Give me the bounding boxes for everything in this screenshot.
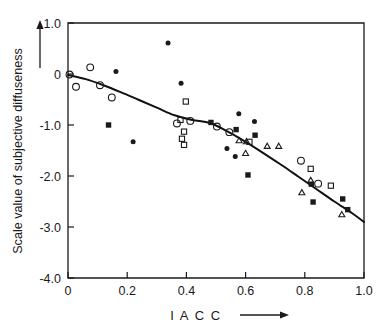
y-axis-arrow-icon: [36, 20, 43, 68]
x-tick-label: 0.6: [237, 284, 254, 298]
marker-filled-square: [245, 172, 250, 177]
series-open-triangle: [236, 138, 345, 217]
marker-open-circle: [174, 120, 181, 127]
chart-figure: 00.20.40.60.81.0 1.00-1.0-2.0-3.0-4.0 I …: [0, 0, 389, 334]
marker-open-square: [181, 142, 186, 147]
x-tick-label: 0.2: [119, 284, 136, 298]
y-tick-label: -3.0: [39, 221, 61, 235]
fit-curve-path: [68, 75, 364, 222]
y-tick-label: 1.0: [44, 17, 61, 31]
marker-filled-circle: [131, 139, 136, 144]
marker-filled-circle: [252, 119, 257, 124]
y-tick-label: -2.0: [39, 170, 61, 184]
scatter-plot-svg: 00.20.40.60.81.0 1.00-1.0-2.0-3.0-4.0 I …: [0, 0, 389, 334]
marker-open-square: [181, 129, 186, 134]
marker-filled-circle: [166, 40, 171, 45]
marker-open-triangle: [339, 212, 345, 217]
x-tick-label: 0.4: [178, 284, 195, 298]
marker-filled-circle: [224, 146, 229, 151]
series-open-square: [178, 99, 334, 188]
marker-filled-circle: [236, 111, 241, 116]
y-axis-title: Scale value of subjective diffuseness: [11, 48, 25, 254]
marker-open-triangle: [264, 143, 270, 148]
marker-open-triangle: [243, 150, 249, 155]
marker-filled-square: [208, 120, 213, 125]
plot-frame: [68, 23, 364, 278]
marker-open-square: [179, 136, 184, 141]
y-axis-tick-labels: 1.00-1.0-2.0-3.0-4.0: [39, 17, 61, 286]
x-axis-tick-labels: 00.20.40.60.81.0: [65, 284, 373, 298]
marker-open-square: [183, 99, 188, 104]
marker-open-circle: [108, 94, 115, 101]
marker-filled-square: [106, 122, 111, 127]
y-tick-label: -1.0: [39, 119, 61, 133]
marker-open-circle: [315, 180, 322, 187]
marker-filled-square: [310, 199, 315, 204]
marker-open-square: [328, 183, 333, 188]
marker-open-circle: [298, 157, 305, 164]
marker-filled-square: [252, 133, 257, 138]
marker-open-circle: [73, 83, 80, 90]
marker-filled-circle: [233, 154, 238, 159]
marker-filled-square: [345, 207, 350, 212]
x-arrow-head: [280, 311, 289, 318]
marker-open-triangle: [299, 190, 305, 195]
x-tick-label: 0.8: [296, 284, 313, 298]
x-axis-title: I A C C: [170, 308, 222, 323]
x-axis-arrow-icon: [240, 311, 289, 318]
series-filled-circle: [113, 40, 257, 159]
y-axis-ticks: [68, 23, 74, 278]
x-tick-label: 0: [65, 284, 72, 298]
marker-filled-square: [233, 127, 238, 132]
marker-filled-circle: [113, 69, 118, 74]
marker-open-circle: [87, 64, 94, 71]
series-open-circle: [66, 64, 321, 187]
marker-filled-circle: [179, 81, 184, 86]
marker-open-square: [308, 166, 313, 171]
y-arrow-head: [36, 20, 43, 29]
x-axis-ticks: [68, 272, 364, 278]
y-tick-label: -4.0: [39, 272, 61, 286]
y-tick-label: 0: [54, 68, 61, 82]
marker-filled-square: [340, 196, 345, 201]
data-points: [66, 40, 350, 216]
x-tick-label: 1.0: [355, 284, 372, 298]
plot-frame-box: [68, 23, 364, 278]
marker-open-triangle: [276, 143, 282, 148]
regression-curve: [68, 75, 364, 222]
